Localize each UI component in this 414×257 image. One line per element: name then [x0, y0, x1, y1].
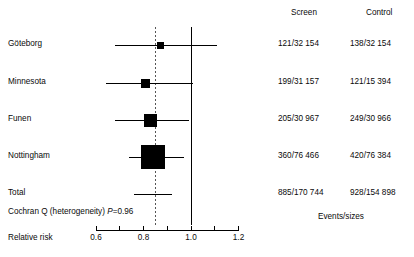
events-sizes-footnote: Events/sizes	[318, 213, 364, 221]
screen-value-3: 360/76 466	[278, 152, 319, 160]
x-axis-tick-label-0.8: 0.8	[138, 234, 149, 242]
p-value: =0.96	[113, 207, 134, 216]
screen-value-1: 199/31 157	[278, 78, 319, 86]
x-axis-tick-label-1.2: 1.2	[233, 234, 244, 242]
forest-plot: Göteborg121/32 154138/32 154Minnesota199…	[0, 0, 414, 257]
heterogeneity-label: Cochran Q (heterogeneity)	[8, 207, 107, 216]
control-value-4: 928/154 898	[350, 189, 396, 197]
study-effect-marker	[141, 79, 150, 88]
x-axis-title: Relative risk	[8, 234, 53, 242]
screen-value-4: 885/170 744	[278, 189, 324, 197]
study-label-2: Funen	[8, 115, 31, 123]
control-value-2: 249/30 966	[350, 115, 391, 123]
column-header-control: Control	[366, 9, 392, 17]
study-label-0: Göteborg	[8, 40, 42, 48]
screen-value-2: 205/30 967	[278, 115, 319, 123]
study-effect-marker	[157, 42, 164, 49]
screen-value-0: 121/32 154	[278, 40, 319, 48]
study-effect-marker	[141, 145, 165, 169]
study-label-3: Nottingham	[8, 152, 50, 160]
heterogeneity-statement: Cochran Q (heterogeneity) P=0.96	[8, 208, 133, 216]
control-value-0: 138/32 154	[350, 40, 391, 48]
x-axis-tick-label-0.6: 0.6	[90, 234, 101, 242]
column-header-screen: Screen	[291, 9, 317, 17]
control-value-1: 121/15 394	[350, 78, 391, 86]
study-effect-marker	[144, 114, 157, 127]
study-label-4: Total	[8, 189, 25, 197]
x-axis-tick-label-1.0: 1.0	[185, 234, 196, 242]
study-label-1: Minnesota	[8, 78, 46, 86]
control-value-3: 420/76 384	[350, 152, 391, 160]
